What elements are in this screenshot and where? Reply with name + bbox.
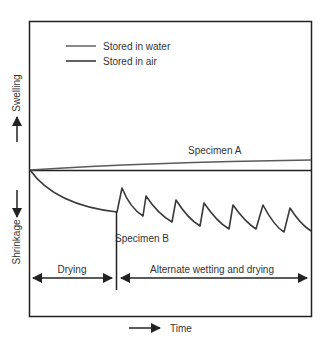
specimen-a-label: Specimen A	[188, 145, 242, 156]
shrinkage-label: Shrinkage	[11, 219, 22, 264]
legend-label-water: Stored in water	[103, 41, 171, 52]
drying-label: Drying	[58, 264, 87, 275]
specimen-a-curve	[30, 160, 311, 170]
x-axis-label: Time	[129, 323, 192, 334]
phase-annotations: Drying Alternate wetting and drying	[33, 264, 307, 278]
legend: Stored in water Stored in air	[66, 41, 171, 67]
specimen-b-label: Specimen B	[115, 233, 169, 244]
shrinkage-swelling-diagram: Stored in water Stored in air Swelling S…	[0, 0, 328, 348]
alternate-label: Alternate wetting and drying	[150, 264, 274, 275]
swelling-label: Swelling	[11, 74, 22, 111]
specimen-b-curve	[30, 170, 311, 232]
y-axis-labels: Swelling Shrinkage	[11, 74, 22, 264]
legend-label-air: Stored in air	[103, 56, 158, 67]
time-label: Time	[170, 323, 192, 334]
